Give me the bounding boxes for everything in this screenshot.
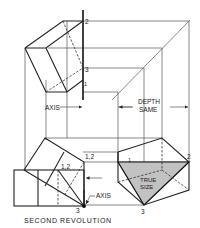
side-point-3: 3: [141, 208, 145, 215]
revolution-drawing: AXIS DEPTH SAME AXIS TRUE SIZE 2 3 1 1,2…: [0, 0, 200, 228]
same-label: SAME: [139, 106, 158, 113]
top-view: [25, 10, 83, 100]
size-label: SIZE: [140, 184, 153, 190]
axis-label-top: AXIS: [45, 104, 60, 111]
true-size-face: [118, 162, 189, 205]
side-point-1: 1: [128, 157, 131, 163]
true-label: TRUE: [140, 177, 156, 183]
top-point-3: 3: [85, 66, 89, 73]
side-point-2: 2: [187, 153, 191, 160]
figure-caption: SECOND REVOLUTION: [24, 217, 112, 224]
dimensions: [60, 107, 188, 204]
front-point-12-inner: 1,2: [61, 163, 70, 170]
axis-label-bottom: AXIS: [96, 192, 111, 199]
drawing-svg: AXIS DEPTH SAME AXIS TRUE SIZE 2 3 1 1,2…: [0, 0, 200, 228]
labels: AXIS DEPTH SAME AXIS TRUE SIZE 2 3 1 1,2…: [24, 18, 191, 224]
side-view: [118, 138, 189, 205]
top-point-1: 1: [84, 81, 87, 87]
depth-label: DEPTH: [138, 98, 160, 105]
top-point-2: 2: [85, 18, 89, 25]
front-point-3: 3: [76, 207, 80, 214]
front-point-12-outer: 1,2: [85, 153, 94, 160]
